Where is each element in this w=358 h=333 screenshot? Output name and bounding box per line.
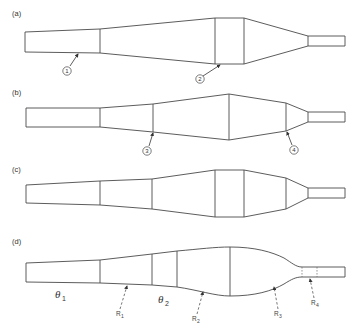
panel-a-label: (a) bbox=[12, 9, 22, 18]
r1-arrow-icon bbox=[120, 286, 127, 309]
callout-3-arrow-icon bbox=[149, 133, 153, 146]
callout-1-arrow-icon bbox=[70, 54, 78, 66]
panel-d-label: (d) bbox=[12, 237, 22, 246]
panel-d-outline bbox=[26, 247, 345, 296]
panel-d: (d) θ 1 θ 2 R 1 R 2 R 3 R 4 bbox=[12, 237, 345, 324]
r3-arrow-icon bbox=[274, 287, 278, 309]
r4-arrow-icon bbox=[310, 279, 314, 298]
panel-c: (c) bbox=[12, 165, 345, 217]
horn-profile-diagram: (a) 1 2 (b) 3 4 (c) bbox=[0, 0, 358, 333]
panel-b: (b) 3 4 bbox=[12, 88, 345, 155]
r1-subscript: 1 bbox=[121, 313, 124, 319]
r2-arrow-icon bbox=[197, 292, 203, 314]
panel-c-label: (c) bbox=[12, 165, 21, 174]
callout-4-arrow-icon bbox=[287, 132, 292, 145]
r4-subscript: 4 bbox=[316, 302, 319, 308]
theta-1-subscript: 1 bbox=[62, 295, 66, 302]
theta-2-symbol: θ bbox=[158, 293, 164, 305]
panel-b-label: (b) bbox=[12, 88, 22, 97]
r3-subscript: 3 bbox=[279, 313, 282, 319]
theta-2-subscript: 2 bbox=[165, 300, 169, 307]
panel-a: (a) 1 2 bbox=[12, 9, 345, 83]
theta-1-symbol: θ bbox=[55, 288, 61, 300]
callout-2-arrow-icon bbox=[203, 65, 220, 76]
panel-b-outline bbox=[26, 94, 345, 140]
r2-subscript: 2 bbox=[197, 318, 200, 324]
panel-c-outline bbox=[26, 170, 345, 217]
panel-a-outline bbox=[25, 18, 345, 64]
